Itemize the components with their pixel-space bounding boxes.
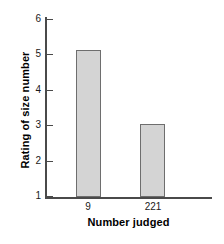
y-axis-title: Rating of size number bbox=[19, 21, 31, 199]
bar-category-221 bbox=[140, 124, 165, 197]
y-tick-mark-5 bbox=[47, 54, 53, 55]
y-tick-mark-2 bbox=[47, 161, 53, 162]
x-tick-label-221: 221 bbox=[128, 201, 178, 213]
bar-chart-figure: 6 5 4 3 2 1 9 221 Number judged Rating o… bbox=[0, 0, 224, 244]
bar-category-9 bbox=[76, 50, 101, 197]
y-tick-mark-4 bbox=[47, 90, 53, 91]
y-tick-mark-1 bbox=[47, 196, 53, 197]
y-axis-line bbox=[45, 17, 47, 199]
x-axis-line bbox=[45, 197, 212, 199]
y-tick-mark-3 bbox=[47, 125, 53, 126]
y-tick-mark-6 bbox=[47, 19, 53, 20]
x-tick-label-9: 9 bbox=[63, 201, 113, 213]
x-axis-title: Number judged bbox=[45, 216, 212, 228]
